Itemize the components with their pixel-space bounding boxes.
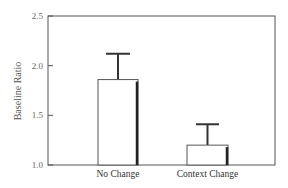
bars: No ChangeContext Change: [96, 54, 238, 179]
x-category-label: No Change: [96, 169, 139, 179]
bar-group: Context Change: [177, 124, 238, 179]
y-tick-label: 2.5: [32, 11, 44, 21]
y-tick-label: 1.5: [32, 110, 44, 120]
bar-chart: 1.01.52.02.5 Baseline Ratio No ChangeCon…: [0, 0, 288, 188]
bar: [98, 80, 138, 165]
y-axis-title: Baseline Ratio: [12, 62, 23, 121]
bar-group: No Change: [96, 54, 139, 179]
y-tick-label: 2.0: [32, 61, 44, 71]
x-category-label: Context Change: [177, 169, 238, 179]
y-tick-label: 1.0: [32, 160, 44, 170]
plot-frame: [48, 16, 275, 165]
bar: [187, 145, 228, 165]
y-axis: 1.01.52.02.5: [32, 11, 53, 170]
